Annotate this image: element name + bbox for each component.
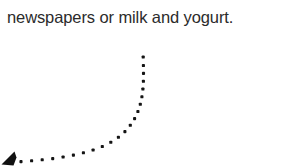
- curve-dot: [72, 154, 75, 157]
- scanned-page-fragment: newspapers or milk and yogurt.: [0, 0, 285, 166]
- curve-dot: [141, 87, 144, 90]
- curve-dot: [140, 95, 143, 98]
- curve-dot: [123, 130, 126, 133]
- curve-dot: [142, 64, 145, 67]
- curve-dot-group: [19, 55, 145, 163]
- curve-dot: [92, 148, 95, 151]
- curve-dot: [139, 103, 142, 106]
- curve-dot: [109, 141, 112, 144]
- curve-dot: [19, 160, 22, 163]
- curve-dot: [101, 145, 104, 148]
- curve-dot: [41, 158, 44, 161]
- curve-dot: [30, 159, 33, 162]
- curve-dot: [82, 151, 85, 154]
- dotted-curve-arrow-figure: [0, 0, 285, 166]
- curve-dot: [129, 124, 132, 127]
- curve-dot: [133, 117, 136, 120]
- curve-dot: [142, 80, 145, 83]
- dotted-curve-svg: [0, 0, 285, 166]
- curve-dot: [62, 155, 65, 158]
- arrowhead-icon: [2, 152, 17, 166]
- curve-dot: [51, 157, 54, 160]
- curve-dot: [117, 136, 120, 139]
- curve-dot: [136, 110, 139, 113]
- curve-dot: [142, 72, 145, 75]
- curve-dot: [142, 55, 145, 58]
